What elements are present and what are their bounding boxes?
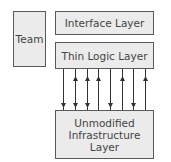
- arrow-up-icon: [120, 69, 125, 110]
- arrow-up-icon: [143, 69, 148, 110]
- connector-arrows: [0, 0, 171, 162]
- arrow-both-icon: [73, 69, 78, 110]
- arrow-up-icon: [96, 69, 101, 110]
- arrow-both-icon: [85, 69, 90, 110]
- arrow-down-icon: [108, 69, 113, 110]
- arrow-down-icon: [131, 69, 136, 110]
- arrow-down-icon: [61, 69, 66, 110]
